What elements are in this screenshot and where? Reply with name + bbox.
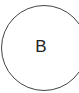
node-label: B xyxy=(33,37,49,57)
